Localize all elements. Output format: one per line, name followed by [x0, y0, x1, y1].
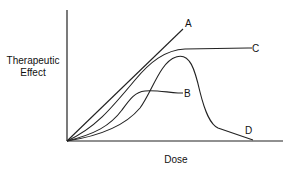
curve-a-label: A: [185, 18, 192, 29]
curve-a: [67, 29, 183, 141]
curve-c: [67, 48, 248, 141]
curve-b-label: B: [184, 88, 191, 99]
dose-response-diagram: Therapeutic Effect Dose A C B D: [0, 0, 287, 169]
xlabel: Dose: [164, 154, 188, 165]
ylabel-line2: Effect: [20, 67, 46, 78]
curve-b: [67, 91, 183, 141]
ylabel-line1: Therapeutic: [7, 55, 60, 66]
curve-c-label: C: [252, 43, 259, 54]
curve-d: [67, 56, 253, 141]
curve-d-label: D: [245, 125, 252, 136]
